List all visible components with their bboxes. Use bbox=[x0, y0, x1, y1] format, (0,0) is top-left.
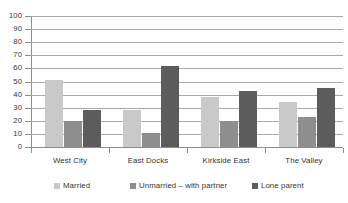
bar bbox=[279, 102, 297, 147]
y-tick-label-10: 10 bbox=[0, 130, 22, 138]
legend-label: Married bbox=[63, 181, 90, 190]
y-tick-label-0: 0 bbox=[0, 143, 22, 151]
legend-swatch-icon bbox=[54, 183, 60, 189]
bar bbox=[317, 88, 335, 147]
legend-swatch-icon bbox=[130, 183, 136, 189]
x-tick-label: Kirkside East bbox=[181, 156, 271, 165]
bar bbox=[45, 80, 63, 147]
y-tick-label-50: 50 bbox=[0, 78, 22, 86]
chart-legend: MarriedUnmarried – with partnerLone pare… bbox=[0, 181, 348, 195]
y-tick-label-70: 70 bbox=[0, 51, 22, 59]
bar-chart: 0102030405060708090100 West CityEast Doc… bbox=[0, 0, 348, 203]
y-tick-label-80: 80 bbox=[0, 38, 22, 46]
y-tick-label-100: 100 bbox=[0, 12, 22, 20]
x-tick-label: West City bbox=[25, 156, 115, 165]
bar-group bbox=[123, 16, 179, 147]
legend-swatch-icon bbox=[252, 183, 258, 189]
bar bbox=[161, 66, 179, 147]
bar-group bbox=[279, 16, 335, 147]
y-tick-label-60: 60 bbox=[0, 64, 22, 72]
y-tick-label-30: 30 bbox=[0, 104, 22, 112]
y-tick-label-90: 90 bbox=[0, 25, 22, 33]
bar bbox=[220, 121, 238, 147]
x-tick bbox=[187, 148, 188, 153]
bar bbox=[239, 91, 257, 147]
y-tick-label-40: 40 bbox=[0, 91, 22, 99]
clipped-title-strip bbox=[0, 0, 348, 9]
bar bbox=[298, 117, 316, 147]
x-tick bbox=[343, 148, 344, 153]
plot-area bbox=[31, 16, 343, 147]
bar-group bbox=[201, 16, 257, 147]
legend-item[interactable]: Married bbox=[54, 181, 90, 190]
y-tick-label-20: 20 bbox=[0, 117, 22, 125]
x-tick bbox=[31, 148, 32, 153]
legend-label: Unmarried – with partner bbox=[139, 181, 227, 190]
legend-item[interactable]: Unmarried – with partner bbox=[130, 181, 227, 190]
bar-group bbox=[45, 16, 101, 147]
bar bbox=[142, 133, 160, 147]
x-tick-label: The Valley bbox=[259, 156, 348, 165]
legend-item[interactable]: Lone parent bbox=[252, 181, 304, 190]
x-tick-label: East Docks bbox=[103, 156, 193, 165]
bar bbox=[123, 110, 141, 147]
x-tick bbox=[265, 148, 266, 153]
bar bbox=[201, 97, 219, 147]
bar bbox=[64, 121, 82, 147]
legend-label: Lone parent bbox=[261, 181, 304, 190]
x-tick bbox=[109, 148, 110, 153]
bar bbox=[83, 110, 101, 147]
